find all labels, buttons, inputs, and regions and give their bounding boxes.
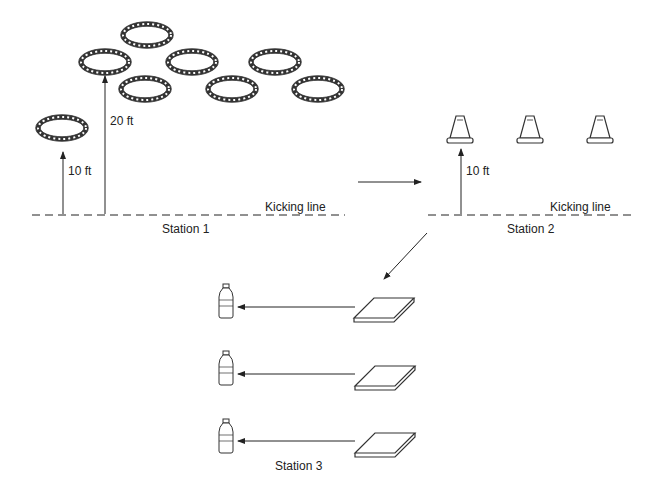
plate-icon [355,433,415,457]
label-10ft-station2: 10 ft [466,164,489,178]
station-2-title: Station 2 [507,222,554,236]
kicking-line-label-2: Kicking line [550,200,611,214]
hoop-rings [36,22,345,142]
station-1-title: Station 1 [162,222,209,236]
plate-icon [355,366,415,390]
cone-icon [517,116,543,143]
label-10ft-station1: 10 ft [68,164,91,178]
kicking-line-label-1: Kicking line [265,200,326,214]
arrow-to-station-3 [384,233,427,279]
drill-diagram [0,0,661,501]
station-1 [32,22,345,215]
bottle-icon [219,419,233,453]
plate-icon [354,298,414,322]
cone-icon [587,116,613,143]
station-3-title: Station 3 [275,459,322,473]
station-3 [219,284,415,457]
label-20ft-station1: 20 ft [110,114,133,128]
cone-icon [447,116,473,143]
bottle-icon [219,351,233,385]
bottle-icon [219,284,233,318]
